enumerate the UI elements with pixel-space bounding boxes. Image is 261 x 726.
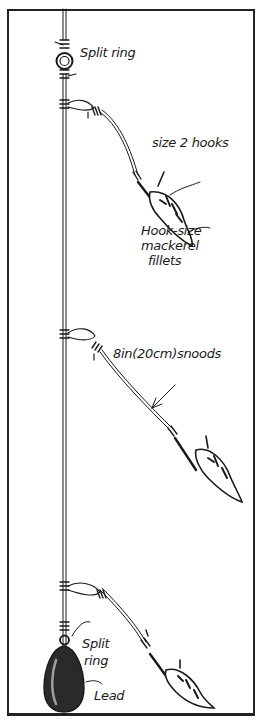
mackerel-fillet-2-icon <box>196 436 242 502</box>
label-fillets-2: mackerel <box>141 238 199 253</box>
label-hooks: size 2 hooks <box>152 135 229 150</box>
label-split-ring-top: Split ring <box>80 45 135 60</box>
label-fillets-3: fillets <box>148 253 181 268</box>
label-lead: Lead <box>94 688 124 703</box>
snood-1 <box>60 100 152 200</box>
label-split-ring-bottom-2: ring <box>84 653 108 668</box>
split-ring-top-icon <box>55 40 76 78</box>
label-fillets-1: Hook-size <box>141 223 201 238</box>
rig-illustration <box>0 0 261 726</box>
label-split-ring-bottom-1: Split <box>82 636 109 651</box>
label-snoods: 8in(20cm)snoods <box>113 346 221 361</box>
mackerel-fillet-3-icon <box>165 660 214 708</box>
